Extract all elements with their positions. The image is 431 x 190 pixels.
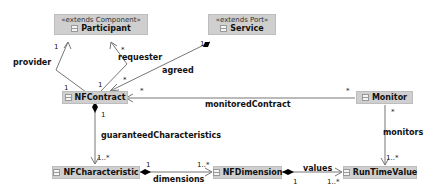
monitoredContract-source-mult: * bbox=[140, 87, 144, 95]
class-nfdimension[interactable]: NFDimension bbox=[213, 166, 282, 179]
class-icon bbox=[362, 94, 369, 101]
values-label: values bbox=[303, 164, 332, 173]
provider-label: provider bbox=[13, 58, 51, 67]
guaranteed-source-mult: 1 bbox=[101, 111, 105, 119]
monitors-label: monitors bbox=[383, 128, 423, 137]
class-icon bbox=[53, 169, 60, 176]
values-target-mult: 1..* bbox=[327, 178, 339, 186]
class-nfcharacteristic[interactable]: NFCharacteristic bbox=[52, 166, 140, 179]
class-icon bbox=[213, 169, 220, 176]
guaranteedCharacteristics-label: guaranteedCharacteristics bbox=[101, 131, 221, 140]
participant-name: Participant bbox=[81, 24, 131, 34]
class-participant[interactable]: «extends Component» Participant bbox=[54, 14, 148, 35]
class-nfcontract[interactable]: NFContract bbox=[62, 91, 128, 104]
nfdimension-name: NFDimension bbox=[223, 168, 283, 178]
provider-source-mult: 1 bbox=[64, 84, 68, 92]
dimensions-target-mult: 1..* bbox=[197, 161, 209, 169]
monitoredContract-target-mult: * bbox=[346, 87, 350, 95]
provider-line bbox=[56, 42, 86, 92]
service-name: Service bbox=[230, 24, 263, 34]
agreed-target-mult: * bbox=[123, 76, 127, 84]
dimensions-source-mult: 1 bbox=[146, 161, 150, 169]
values-source-mult: 1 bbox=[293, 178, 297, 186]
monitoredContract-label: monitoredContract bbox=[205, 100, 290, 109]
class-monitor[interactable]: Monitor bbox=[356, 91, 413, 104]
class-icon bbox=[343, 169, 350, 176]
requester-source-mult: 1 bbox=[98, 81, 102, 89]
monitor-name: Monitor bbox=[372, 93, 407, 103]
dimensions-diamond-icon bbox=[140, 169, 151, 175]
values-diamond-icon bbox=[282, 169, 294, 175]
runtimevalue-name: RunTimeValue bbox=[353, 168, 418, 178]
guaranteed-target-mult: 1..* bbox=[97, 154, 109, 162]
monitors-source-mult: * bbox=[391, 108, 395, 116]
class-service[interactable]: «extends Port» Service bbox=[208, 14, 276, 35]
class-icon bbox=[220, 25, 227, 32]
agreed-label: agreed bbox=[162, 66, 194, 75]
requester-target-mult: * bbox=[121, 46, 125, 54]
service-stereotype: «extends Port» bbox=[216, 16, 269, 24]
provider-target-mult: 1 bbox=[54, 43, 58, 51]
agreed-source-mult: 1 bbox=[200, 40, 204, 48]
class-runtimevalue[interactable]: RunTimeValue bbox=[343, 166, 417, 179]
nfcharacteristic-name: NFCharacteristic bbox=[63, 168, 138, 178]
class-icon bbox=[65, 94, 72, 101]
class-icon bbox=[71, 25, 78, 32]
uml-class-diagram: «extends Component» Participant «extends… bbox=[0, 0, 431, 190]
monitors-target-mult: 1..* bbox=[386, 154, 398, 162]
participant-stereotype: «extends Component» bbox=[61, 16, 140, 24]
nfcontract-name: NFContract bbox=[75, 93, 126, 103]
dimensions-label: dimensions bbox=[153, 175, 204, 184]
requester-label: requester bbox=[118, 53, 162, 62]
